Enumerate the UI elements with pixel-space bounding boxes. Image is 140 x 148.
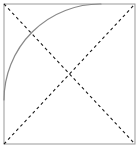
figure-svg	[0, 0, 140, 148]
figure-canvas	[0, 0, 140, 148]
